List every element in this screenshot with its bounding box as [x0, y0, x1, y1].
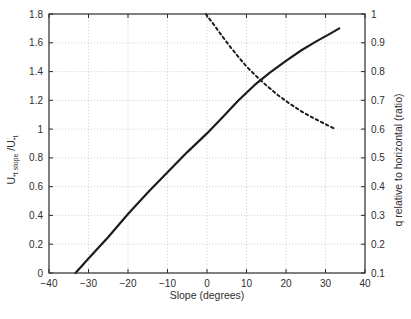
y-left-tick-label: 0.2: [29, 239, 43, 250]
y-left-tick-label: 1.2: [29, 95, 43, 106]
y-axis-right-label: q relative to horizontal (ratio): [392, 45, 404, 275]
y-right-tick-label: 0.5: [371, 152, 385, 163]
y-right-tick-label: 0.9: [371, 37, 385, 48]
plot-canvas: −40−30−20−1001020304000.20.40.60.811.21.…: [0, 0, 411, 319]
x-tick-label: −10: [159, 278, 176, 289]
y-right-tick-label: 1: [371, 9, 377, 20]
y-axis-left-label: U*t slope /U*t: [5, 80, 17, 240]
y-left-tick-label: 0.6: [29, 181, 43, 192]
x-tick-label: 20: [280, 278, 292, 289]
y-left-tick-label: 0: [37, 268, 43, 279]
y-right-tick-label: 0.3: [371, 210, 385, 221]
y-left-label-sub2: *t: [12, 135, 19, 140]
x-tick-label: −40: [41, 278, 58, 289]
y-right-tick-label: 0.2: [371, 239, 385, 250]
x-tick-label: 0: [204, 278, 210, 289]
x-tick-label: 30: [320, 278, 332, 289]
y-right-tick-label: 0.1: [371, 268, 385, 279]
y-left-label-base2: /U: [5, 140, 17, 153]
y-left-tick-label: 1.6: [29, 37, 43, 48]
x-tick-label: −30: [80, 278, 97, 289]
y-left-tick-label: 0.8: [29, 152, 43, 163]
y-left-tick-label: 1.4: [29, 66, 43, 77]
y-right-tick-label: 0.8: [371, 66, 385, 77]
y-left-tick-label: 1: [37, 124, 43, 135]
gridlines: [49, 14, 365, 273]
y-right-tick-label: 0.6: [371, 124, 385, 135]
x-axis-label: Slope (degrees): [107, 289, 307, 301]
y-left-label-base1: U: [5, 177, 17, 185]
x-tick-label: −20: [120, 278, 137, 289]
y-left-label-sub1: *t slope: [12, 154, 19, 177]
y-right-tick-label: 0.7: [371, 95, 385, 106]
slope-effect-chart: −40−30−20−1001020304000.20.40.60.811.21.…: [0, 0, 411, 319]
series-solid-threshold-curve: [76, 28, 340, 273]
x-tick-label: 40: [359, 278, 371, 289]
y-right-tick-label: 0.4: [371, 181, 385, 192]
x-tick-label: 10: [241, 278, 253, 289]
y-left-tick-label: 0.4: [29, 210, 43, 221]
y-left-tick-label: 1.8: [29, 9, 43, 20]
